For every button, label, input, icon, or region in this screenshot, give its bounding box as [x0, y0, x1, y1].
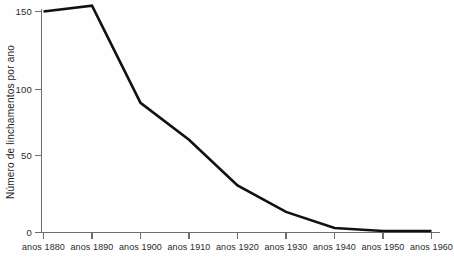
x-tick-label-1960: anos 1960: [410, 242, 453, 252]
y-tick-label-150: 150: [16, 6, 32, 17]
x-tick-label-1920: anos 1920: [216, 242, 259, 252]
y-tick-label-100: 100: [16, 84, 32, 95]
x-tick-label-1880: anos 1880: [22, 242, 65, 252]
x-tick-label-1910: anos 1910: [168, 242, 211, 252]
x-tick-label-1930: anos 1930: [265, 242, 308, 252]
x-tick-label-1940: anos 1940: [313, 242, 356, 252]
chart-canvas: Número de linchamentos por ano 150 100 5…: [0, 0, 454, 257]
y-tick-label-0: 0: [27, 227, 32, 238]
lynchings-line-chart: Número de linchamentos por ano 150 100 5…: [0, 0, 454, 257]
x-tick-label-1900: anos 1900: [119, 242, 162, 252]
data-series-line: [44, 6, 432, 231]
y-tick-label-50: 50: [21, 150, 32, 161]
x-tick-label-1890: anos 1890: [71, 242, 114, 252]
x-tick-label-1950: anos 1950: [362, 242, 405, 252]
y-axis-title: Número de linchamentos por ano: [5, 45, 16, 199]
